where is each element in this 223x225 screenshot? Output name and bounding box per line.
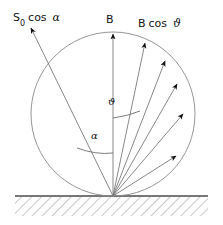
label-incident-flux-subscript: 0 <box>20 19 25 28</box>
figure-container: S0cosα B Bcosϑ ϑ α <box>0 0 223 225</box>
label-vertical-vector: B <box>106 14 114 25</box>
emitted-ray-3 <box>113 84 177 196</box>
emitted-ray-fan <box>113 43 183 196</box>
label-incident-flux: S0cosα <box>13 12 60 26</box>
ground-hatching <box>15 197 208 216</box>
label-incident-flux-symbol: S <box>13 11 20 24</box>
label-cosine-vector-symbol: B <box>138 17 146 30</box>
emitted-ray-2 <box>113 61 165 196</box>
angle-arc-theta <box>113 111 140 118</box>
label-angle-theta: ϑ <box>108 97 115 107</box>
label-incident-flux-angle: α <box>53 11 60 24</box>
angle-arc-alpha <box>77 148 113 153</box>
diagram-canvas <box>0 0 223 225</box>
label-cosine-vector-expression: cos <box>149 17 168 30</box>
emitted-ray-4 <box>113 114 183 196</box>
label-cosine-vector: Bcosϑ <box>138 18 181 29</box>
emitted-ray-1 <box>113 43 145 196</box>
label-cosine-vector-angle: ϑ <box>173 17 181 30</box>
incident-ray-arrow <box>31 28 113 196</box>
label-incident-flux-expression: cos <box>28 11 47 24</box>
label-angle-alpha: α <box>91 131 98 141</box>
